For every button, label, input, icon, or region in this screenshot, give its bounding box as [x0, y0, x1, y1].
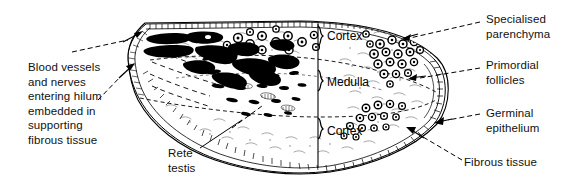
leader-blood-vessels-upper	[72, 40, 128, 52]
label-fibrous-tissue: Fibrous tissue	[464, 155, 572, 170]
region-label-medulla: Medulla	[327, 76, 369, 89]
label-primordial-follicles: Primordial follicles	[486, 58, 570, 87]
ovary-diagram-page: Blood vessels and nerves entering hilum …	[0, 0, 576, 189]
region-label-cortex-bottom: Cortex	[327, 125, 362, 138]
label-rete-testis: Rete testis	[168, 146, 228, 175]
leader-fibrous-tissue	[418, 134, 462, 160]
label-germinal-epithelium: Germinal epithelium	[486, 106, 570, 135]
label-specialised-parenchyma: Specialised parenchyma	[486, 12, 574, 41]
region-label-cortex-top: Cortex	[327, 30, 362, 43]
leader-specialised-parenchyma	[410, 22, 480, 38]
label-blood-vessels: Blood vessels and nerves entering hilum …	[28, 60, 146, 147]
leader-germinal-epithelium	[448, 114, 480, 120]
